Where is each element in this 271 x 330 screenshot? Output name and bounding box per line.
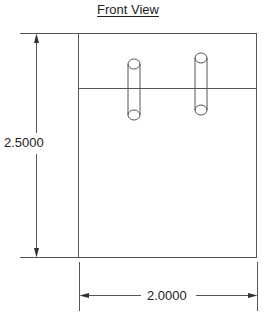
arrow-up-icon	[34, 34, 39, 44]
arrow-down-icon	[34, 248, 39, 258]
part-outline	[79, 34, 257, 258]
arrow-right-icon	[248, 293, 258, 298]
arrow-left-icon	[80, 293, 90, 298]
front-view-drawing	[0, 0, 271, 330]
height-dimension-label: 2.5000	[2, 136, 46, 150]
width-dimension-label: 2.0000	[145, 289, 189, 303]
left-cylinder	[128, 59, 140, 120]
right-cylinder	[195, 53, 207, 115]
